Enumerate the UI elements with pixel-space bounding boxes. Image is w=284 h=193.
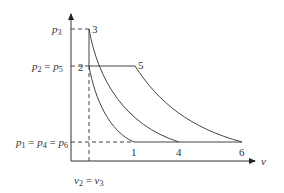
label-v2-v3: v2 = v3 (74, 174, 104, 188)
x-axis-label: v (261, 155, 266, 167)
point-2-label: 2 (78, 61, 84, 73)
pv-diagram: p3 p2 = p5 p1 = p4 = p6 v2 = v3 v 2 3 5 … (0, 0, 284, 193)
point-6-label: 6 (239, 146, 245, 158)
point-3-label: 3 (92, 23, 98, 35)
point-4-label: 4 (176, 146, 182, 158)
label-p3: p3 (51, 23, 62, 37)
label-p2-p5: p2 = p5 (31, 60, 63, 74)
curve-2-1 (89, 66, 134, 142)
point-1-label: 1 (131, 146, 137, 158)
curve-5-6 (135, 66, 242, 142)
label-p1-p4-p6: p1 = p4 = p6 (15, 136, 68, 150)
point-5-label: 5 (138, 59, 144, 71)
curve-3-4 (89, 29, 179, 142)
